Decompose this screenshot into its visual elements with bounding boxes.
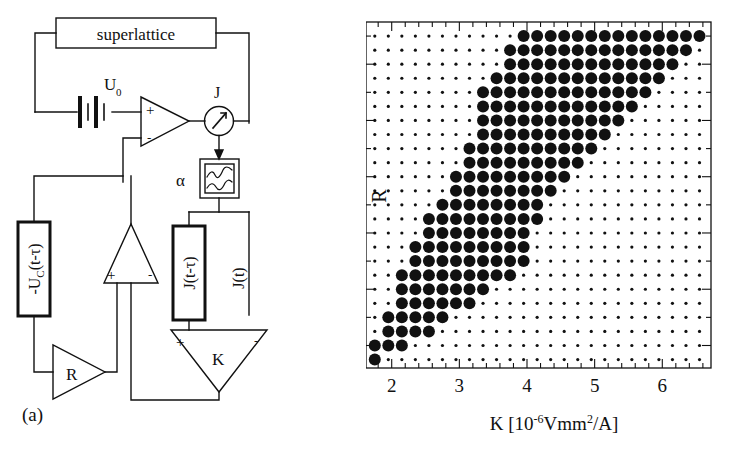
data-point-small bbox=[657, 189, 660, 192]
data-point-large bbox=[545, 143, 557, 155]
data-point-small bbox=[684, 231, 687, 234]
data-point-large bbox=[491, 129, 503, 141]
data-point-small bbox=[373, 217, 376, 220]
data-point-large bbox=[450, 227, 462, 239]
data-point-large bbox=[680, 44, 692, 56]
data-point-large bbox=[545, 86, 557, 98]
data-point-small bbox=[657, 344, 660, 347]
data-point-small bbox=[373, 330, 376, 333]
data-point-large bbox=[369, 339, 381, 351]
data-point-small bbox=[630, 316, 633, 319]
data-point-small bbox=[657, 330, 660, 333]
data-point-large bbox=[558, 171, 570, 183]
data-point-large bbox=[626, 30, 638, 42]
data-point-small bbox=[603, 217, 606, 220]
data-point-small bbox=[454, 119, 457, 122]
data-point-small bbox=[590, 302, 593, 305]
data-point-small bbox=[671, 288, 674, 291]
data-point-small bbox=[590, 161, 593, 164]
data-point-small bbox=[576, 203, 579, 206]
superlattice-label: superlattice bbox=[97, 25, 175, 44]
data-point-small bbox=[630, 133, 633, 136]
data-point-small bbox=[698, 63, 701, 66]
data-point-small bbox=[698, 147, 701, 150]
figure-root: superlattice U 0 J α + - + - + - R K bbox=[0, 0, 731, 450]
data-point-large bbox=[545, 72, 557, 84]
data-point-large bbox=[450, 199, 462, 211]
y-axis-label-group: R bbox=[368, 189, 390, 203]
data-point-small bbox=[414, 203, 417, 206]
data-point-small bbox=[576, 330, 579, 333]
data-point-large bbox=[477, 171, 489, 183]
data-point-small bbox=[576, 231, 579, 234]
data-point-large bbox=[612, 114, 624, 126]
data-point-large bbox=[599, 114, 611, 126]
data-point-small bbox=[427, 344, 430, 347]
data-point-small bbox=[671, 175, 674, 178]
data-point-large bbox=[612, 30, 624, 42]
x-axis-label-bracket-open: [10 bbox=[508, 413, 533, 434]
data-point-small bbox=[549, 358, 552, 361]
data-point-small bbox=[684, 358, 687, 361]
data-point-small bbox=[400, 63, 403, 66]
data-point-small bbox=[387, 175, 390, 178]
data-point-small bbox=[684, 260, 687, 263]
data-point-large bbox=[477, 143, 489, 155]
data-point-small bbox=[387, 245, 390, 248]
data-point-small bbox=[387, 161, 390, 164]
data-point-small bbox=[563, 231, 566, 234]
data-point-large bbox=[464, 297, 476, 309]
data-point-large bbox=[436, 297, 448, 309]
data-point-small bbox=[387, 288, 390, 291]
data-point-small bbox=[590, 260, 593, 263]
data-point-small bbox=[590, 288, 593, 291]
data-point-small bbox=[373, 245, 376, 248]
data-point-small bbox=[522, 330, 525, 333]
data-point-small bbox=[549, 245, 552, 248]
data-point-small bbox=[441, 147, 444, 150]
data-point-small bbox=[671, 119, 674, 122]
data-point-large bbox=[464, 213, 476, 225]
data-point-small bbox=[671, 245, 674, 248]
voltage-source-label-group: U 0 bbox=[104, 75, 122, 98]
x-axis-label-exponent: -6 bbox=[534, 412, 544, 426]
data-point-small bbox=[698, 217, 701, 220]
data-point-large bbox=[518, 143, 530, 155]
data-point-small bbox=[684, 161, 687, 164]
data-point-small bbox=[671, 147, 674, 150]
data-point-small bbox=[387, 49, 390, 52]
data-point-large bbox=[531, 129, 543, 141]
data-point-large bbox=[531, 171, 543, 183]
data-point-small bbox=[657, 260, 660, 263]
data-point-large bbox=[450, 269, 462, 281]
data-point-small bbox=[563, 302, 566, 305]
data-point-large bbox=[518, 241, 530, 253]
data-point-small bbox=[400, 217, 403, 220]
data-point-large bbox=[450, 283, 462, 295]
data-point-small bbox=[576, 344, 579, 347]
data-point-large bbox=[558, 58, 570, 70]
data-point-large bbox=[518, 44, 530, 56]
data-point-large bbox=[531, 30, 543, 42]
delay-voltage-label-combined: -UC(t-τ) bbox=[26, 243, 46, 294]
data-point-small bbox=[684, 119, 687, 122]
data-point-small bbox=[684, 189, 687, 192]
data-point-small bbox=[441, 105, 444, 108]
data-point-large bbox=[558, 129, 570, 141]
data-point-small bbox=[644, 217, 647, 220]
data-point-large bbox=[545, 114, 557, 126]
y-axis-label: R bbox=[368, 189, 390, 203]
data-point-small bbox=[549, 330, 552, 333]
data-point-small bbox=[630, 358, 633, 361]
data-point-large bbox=[531, 143, 543, 155]
data-point-small bbox=[468, 316, 471, 319]
data-point-small bbox=[671, 260, 674, 263]
data-point-large bbox=[464, 269, 476, 281]
data-point-large bbox=[491, 227, 503, 239]
x-tick-label: 5 bbox=[590, 375, 600, 396]
data-point-large bbox=[572, 58, 584, 70]
data-point-small bbox=[698, 245, 701, 248]
data-point-small bbox=[671, 302, 674, 305]
data-point-small bbox=[414, 175, 417, 178]
data-point-large bbox=[558, 30, 570, 42]
